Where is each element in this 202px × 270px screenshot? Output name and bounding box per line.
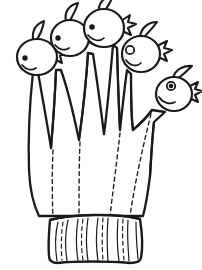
artwork-canvas [0, 0, 202, 270]
glove-cuff [49, 215, 143, 263]
eye-index [126, 46, 134, 54]
eye-ring [55, 35, 60, 40]
finger-puppet-glove-drawing [0, 0, 202, 270]
eye-pinky [22, 55, 27, 60]
stitch-seam-1 [52, 150, 53, 216]
eye-thumb-pupil [169, 84, 174, 89]
eye-middle [89, 24, 95, 30]
